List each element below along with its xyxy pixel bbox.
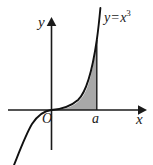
y-axis-arrow-icon [47, 17, 57, 26]
equation-exponent: 3 [126, 8, 131, 18]
equation-equals-sign: = [110, 10, 120, 25]
upper-bound-label-a: a [92, 112, 99, 126]
y-axis-label: y [38, 15, 45, 30]
curve-equation-label: y=x3 [104, 11, 131, 25]
x-axis-label: x [136, 112, 143, 127]
math-figure-graph: y x O a y=x3 [0, 0, 153, 165]
cubic-curve-path [14, 8, 100, 165]
origin-label: O [42, 112, 52, 126]
